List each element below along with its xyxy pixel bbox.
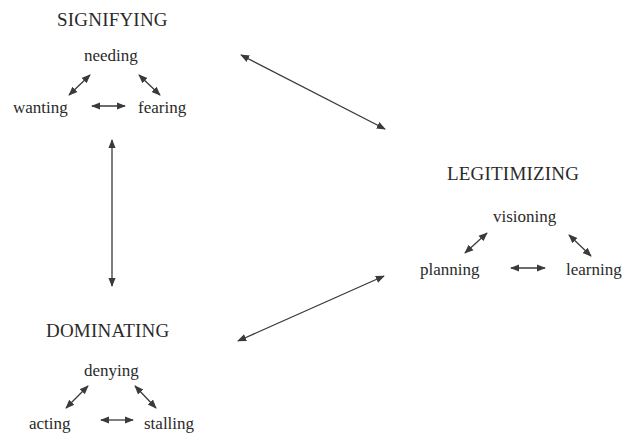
node-acting: acting [29, 415, 71, 432]
arrow-visioning-learning [569, 235, 591, 256]
node-planning: planning [420, 261, 480, 278]
arrow-signifying-legitimizing [241, 55, 385, 129]
node-denying: denying [84, 362, 139, 379]
node-wanting: wanting [13, 99, 68, 116]
node-needing: needing [84, 47, 138, 64]
arrow-needing-fearing [139, 75, 160, 95]
group-title-legitimizing: LEGITIMIZING [447, 164, 579, 183]
node-learning: learning [566, 261, 622, 278]
arrow-needing-wanting [69, 75, 90, 95]
arrow-dominating-legitimizing [238, 276, 384, 341]
group-title-signifying: SIGNIFYING [57, 10, 168, 29]
node-fearing: fearing [138, 99, 186, 116]
arrow-denying-acting [66, 386, 88, 408]
group-title-dominating: DOMINATING [46, 321, 169, 340]
arrow-visioning-planning [465, 233, 487, 253]
node-stalling: stalling [144, 415, 194, 432]
node-visioning: visioning [493, 208, 556, 225]
arrow-denying-stalling [135, 386, 156, 408]
